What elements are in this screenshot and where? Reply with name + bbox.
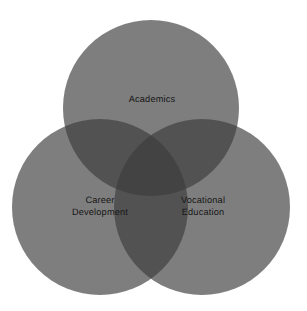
- venn-diagram-canvas: [0, 0, 307, 311]
- venn-diagram-figure: Academics CareerDevelopment VocationalEd…: [0, 0, 307, 311]
